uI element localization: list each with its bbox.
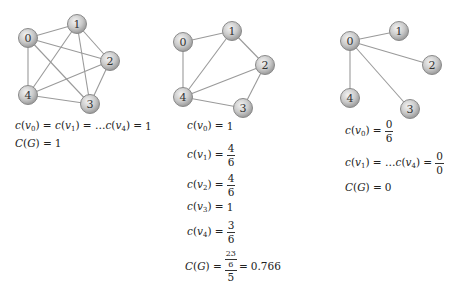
g2-global-value: 0.766 (251, 261, 281, 272)
g2-c3-value: 1 (227, 202, 234, 213)
g3-rest-fraction: 0 0 (435, 151, 444, 175)
graph1-edge-0-2 (28, 38, 110, 61)
graph3-node-0: 0 (341, 32, 360, 51)
graph1-node-4: 4 (19, 86, 38, 105)
graph1-node-0: 0 (19, 29, 38, 48)
graph3-node-4: 4 (341, 89, 360, 108)
graph2-node-2: 2 (256, 56, 275, 75)
graph3-node-3: 3 (401, 100, 420, 119)
g2-c2: c(v2) = 4 6 (187, 173, 235, 197)
g2-c4-fraction: 3 6 (227, 220, 236, 244)
graph1-node-2: 2 (101, 52, 120, 71)
g3-global-coefficient: C(G) = 0 (345, 182, 391, 193)
nodes-layer: 012340123401234 (19, 15, 442, 119)
svg-text:2: 2 (107, 55, 114, 68)
svg-text:4: 4 (25, 89, 32, 102)
g2-c0: c(v0) = 1 (187, 120, 233, 133)
svg-text:4: 4 (180, 91, 187, 104)
svg-text:0: 0 (347, 35, 354, 48)
graph1-node-3: 3 (81, 95, 100, 114)
svg-text:2: 2 (429, 59, 436, 72)
g2-global-coefficient: C(G) = 23 6 5 = 0.766 (185, 250, 281, 283)
g2-global-fraction: 23 6 5 (225, 250, 237, 283)
g1-local-value: 1 (145, 121, 152, 132)
g1-local-coefficients: c(v0) = c(v1) = …c(v4) = 1 (15, 120, 152, 133)
svg-text:0: 0 (180, 36, 187, 49)
graph2-node-4: 4 (174, 88, 193, 107)
graph3-node-1: 1 (390, 22, 409, 41)
svg-text:3: 3 (240, 102, 247, 115)
g2-c4: c(v4) = 3 6 (187, 220, 235, 244)
graph3-node-2: 2 (423, 56, 442, 75)
g3-global-value: 0 (385, 182, 392, 193)
svg-text:3: 3 (87, 98, 94, 111)
g2-c1-fraction: 4 6 (227, 143, 236, 167)
g3-c0: c(v0) = 0 6 (345, 119, 393, 143)
graph2-node-3: 3 (234, 99, 253, 118)
g1-global-coefficient: C(G) = 1 (15, 138, 61, 149)
g3-c1-to-c4: c(v1) = …c(v4) = 0 0 (345, 151, 444, 175)
g2-c3: c(v3) = 1 (187, 201, 233, 214)
g3-c0-fraction: 0 6 (385, 119, 394, 143)
g2-c1: c(v1) = 4 6 (187, 143, 235, 167)
svg-text:3: 3 (407, 103, 414, 116)
graph3-edge-0-2 (350, 41, 432, 65)
svg-text:1: 1 (396, 25, 403, 38)
g1-global-value: 1 (55, 138, 62, 149)
svg-text:2: 2 (262, 59, 269, 72)
graph2-node-1: 1 (223, 22, 242, 41)
graph2-node-0: 0 (174, 33, 193, 52)
g2-c2-fraction: 4 6 (227, 173, 236, 197)
svg-text:0: 0 (25, 32, 32, 45)
svg-text:1: 1 (229, 25, 236, 38)
g2-c0-value: 1 (227, 121, 234, 132)
svg-text:4: 4 (347, 92, 354, 105)
svg-text:1: 1 (74, 18, 81, 31)
graph1-node-1: 1 (68, 15, 87, 34)
